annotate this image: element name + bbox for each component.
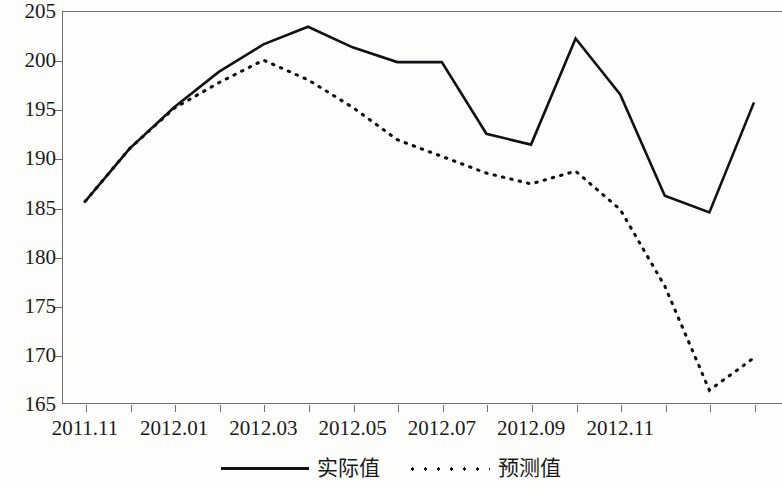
x-axis-tick	[86, 405, 87, 412]
y-axis-tick-label: 180	[0, 246, 56, 267]
x-axis-tick-label: 2012.03	[229, 418, 297, 439]
y-axis-tick-label: 185	[0, 197, 56, 218]
dotted-line-icon	[406, 467, 490, 471]
x-axis-tick	[577, 405, 578, 412]
x-axis: 2011.112012.012012.032012.052012.072012.…	[0, 418, 782, 450]
x-axis-tick	[175, 405, 176, 412]
x-axis-tick	[264, 405, 265, 412]
y-axis-tick	[55, 307, 63, 308]
y-axis-tick-label: 170	[0, 344, 56, 365]
x-axis-tick	[666, 405, 667, 412]
legend-item-forecast: 预测值	[406, 458, 561, 479]
x-axis-tick	[309, 405, 310, 412]
x-axis-tick	[354, 405, 355, 412]
solid-line-icon	[221, 467, 309, 470]
x-axis-tick-label: 2012.07	[408, 418, 476, 439]
legend-label-actual: 实际值	[317, 458, 380, 479]
x-axis-tick-label: 2012.11	[586, 418, 653, 439]
y-axis-tick-label: 200	[0, 50, 56, 71]
x-axis-tick	[621, 405, 622, 412]
y-axis-tick	[55, 258, 63, 259]
y-axis-tick-label: 205	[0, 1, 56, 22]
x-axis-tick	[755, 405, 756, 412]
y-axis-tick	[55, 159, 63, 160]
chart-legend: 实际值 预测值	[0, 458, 782, 479]
y-axis-tick	[55, 209, 63, 210]
y-axis: 165170175180185190195200205	[0, 0, 56, 489]
y-axis-tick-label: 175	[0, 295, 56, 316]
x-axis-tick	[710, 405, 711, 412]
x-axis-tick	[443, 405, 444, 412]
legend-item-actual: 实际值	[221, 458, 380, 479]
y-axis-tick-label: 190	[0, 148, 56, 169]
legend-label-forecast: 预测值	[498, 458, 561, 479]
x-axis-tick-label: 2012.01	[140, 418, 208, 439]
x-axis-tick	[220, 405, 221, 412]
x-axis-tick-label: 2012.05	[318, 418, 386, 439]
x-axis-tick	[398, 405, 399, 412]
y-axis-tick	[55, 61, 63, 62]
x-axis-tick	[487, 405, 488, 412]
x-axis-tick	[532, 405, 533, 412]
x-axis-tick-label: 2012.09	[497, 418, 565, 439]
y-axis-tick	[55, 356, 63, 357]
y-axis-tick-label: 195	[0, 99, 56, 120]
x-axis-tick-label: 2011.11	[52, 418, 119, 439]
y-axis-tick	[55, 110, 63, 111]
y-axis-tick-label: 165	[0, 394, 56, 415]
line-chart: 165170175180185190195200205 2011.112012.…	[0, 0, 782, 489]
plot-area-frame	[62, 11, 782, 404]
x-axis-tick	[131, 405, 132, 412]
